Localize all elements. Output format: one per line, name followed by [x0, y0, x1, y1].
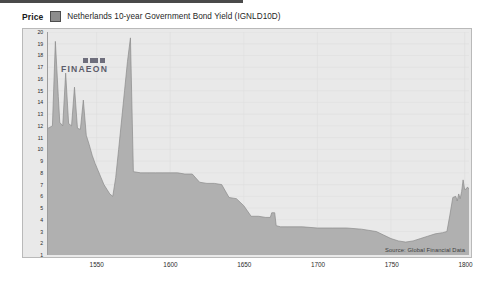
y-axis-tick-label: 17: [37, 65, 43, 70]
area-chart-svg: [48, 32, 469, 255]
x-axis-tick-label: 1750: [385, 261, 399, 268]
y-axis-tick-label: 15: [37, 88, 43, 93]
legend-color-swatch: [50, 11, 61, 22]
y-axis: 2019181716151413121110987654321: [23, 32, 47, 255]
y-axis-tick-label: 4: [40, 217, 43, 222]
y-axis-tick-label: 7: [40, 182, 43, 187]
legend-price-label: Price: [22, 12, 43, 22]
chart-frame: 2019181716151413121110987654321 FINAEON …: [22, 28, 472, 258]
y-axis-tick-label: 14: [37, 100, 43, 105]
y-axis-tick-label: 13: [37, 112, 43, 117]
x-axis: 155016001650170017501800: [22, 261, 472, 275]
y-axis-tick-label: 5: [40, 206, 43, 211]
x-axis-tick-label: 1550: [90, 261, 104, 268]
y-axis-tick-label: 9: [40, 159, 43, 164]
legend-series-label: Netherlands 10-year Government Bond Yiel…: [67, 12, 280, 21]
source-attribution: Source: Global Financial Data: [385, 247, 465, 253]
y-axis-tick-label: 18: [37, 53, 43, 58]
x-axis-tick-label: 1800: [458, 261, 472, 268]
y-axis-tick-label: 1: [40, 253, 43, 258]
chart-legend: Price Netherlands 10-year Government Bon…: [22, 10, 281, 23]
y-axis-tick-label: 6: [40, 194, 43, 199]
y-axis-tick-label: 2: [40, 241, 43, 246]
x-axis-tick-label: 1700: [311, 261, 325, 268]
chart-page: Price Netherlands 10-year Government Bon…: [0, 0, 481, 288]
y-axis-tick-label: 20: [37, 30, 43, 35]
top-rule-divider: [0, 0, 243, 3]
y-axis-tick-label: 12: [37, 123, 43, 128]
y-axis-tick-label: 3: [40, 229, 43, 234]
x-axis-tick-label: 1650: [237, 261, 251, 268]
y-axis-tick-label: 19: [37, 41, 43, 46]
plot-area: [48, 32, 469, 255]
y-axis-tick-label: 11: [38, 135, 43, 140]
x-axis-tick-label: 1600: [163, 261, 177, 268]
y-axis-tick-label: 10: [37, 147, 43, 152]
y-axis-tick-label: 8: [40, 170, 43, 175]
y-axis-tick-label: 16: [37, 76, 43, 81]
